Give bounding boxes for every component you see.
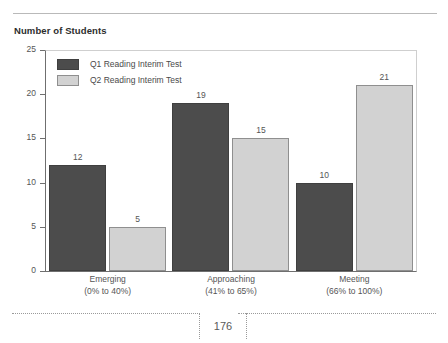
bar-slot: 10 — [296, 50, 353, 271]
y-axis-tick-label: 5 — [31, 221, 36, 231]
page-number: 176 — [214, 320, 232, 332]
legend-item[interactable]: Q1 Reading Interim Test — [57, 56, 182, 72]
bar-q1[interactable] — [49, 165, 106, 271]
bar-q2[interactable] — [232, 138, 289, 271]
y-axis-tick-label: 0 — [31, 265, 36, 275]
x-axis-category-range: (0% to 40%) — [46, 286, 169, 298]
bar-group: 1021 — [293, 50, 416, 271]
bar-value-label: 15 — [256, 125, 265, 135]
y-axis-tick-mark — [40, 271, 45, 272]
y-axis-tick-label: 25 — [27, 44, 36, 54]
bar-value-label: 5 — [135, 214, 140, 224]
y-axis-tick-label: 10 — [27, 177, 36, 187]
x-axis-category-name: Meeting — [339, 274, 369, 284]
bar-slot: 15 — [232, 50, 289, 271]
chart-page: Number of Students 0510152025 1251915102… — [0, 0, 448, 343]
bar-group: 1915 — [169, 50, 292, 271]
x-axis-category-name: Emerging — [89, 274, 125, 284]
y-axis-tick-label: 20 — [27, 88, 36, 98]
page-title: Number of Students — [14, 25, 107, 36]
page-footer: 176 — [0, 313, 448, 343]
y-axis-tick-mark — [40, 50, 45, 51]
x-axis-category-range: (41% to 65%) — [169, 286, 292, 298]
page-number-box: 176 — [199, 313, 247, 339]
y-axis: 0510152025 — [0, 50, 45, 272]
x-axis-category-range: (66% to 100%) — [293, 286, 416, 298]
legend-label: Q2 Reading Interim Test — [90, 75, 182, 85]
footer-dotted-rule-left — [12, 313, 200, 315]
bar-value-label: 19 — [196, 90, 205, 100]
bar-q1[interactable] — [172, 103, 229, 271]
x-axis-category-name: Approaching — [207, 274, 255, 284]
y-axis-tick-mark — [40, 138, 45, 139]
bar-value-label: 10 — [320, 170, 329, 180]
bar-q2[interactable] — [109, 227, 166, 271]
y-axis-tick-mark — [40, 183, 45, 184]
top-divider-rule — [13, 13, 437, 14]
bar-value-label: 12 — [73, 152, 82, 162]
x-axis-category: Meeting(66% to 100%) — [293, 274, 416, 297]
legend-item[interactable]: Q2 Reading Interim Test — [57, 72, 182, 88]
y-axis-tick-mark — [40, 227, 45, 228]
legend-label: Q1 Reading Interim Test — [90, 59, 182, 69]
x-axis-category: Approaching(41% to 65%) — [169, 274, 292, 297]
y-axis-tick-label: 15 — [27, 132, 36, 142]
bar-q2[interactable] — [356, 85, 413, 271]
chart-legend: Q1 Reading Interim TestQ2 Reading Interi… — [57, 56, 182, 88]
bar-slot: 21 — [356, 50, 413, 271]
x-axis: Emerging(0% to 40%)Approaching(41% to 65… — [46, 274, 416, 306]
footer-dotted-rule-right — [238, 313, 436, 315]
x-axis-category: Emerging(0% to 40%) — [46, 274, 169, 297]
legend-swatch-q1 — [57, 59, 79, 70]
y-axis-tick-mark — [40, 94, 45, 95]
bar-value-label: 21 — [380, 72, 389, 82]
legend-swatch-q2 — [57, 75, 79, 86]
bar-q1[interactable] — [296, 183, 353, 271]
